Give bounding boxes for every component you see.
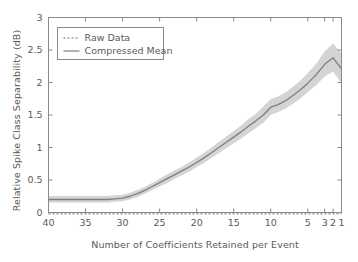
y-tick-label: 3: [36, 12, 42, 23]
legend-label: Raw Data: [85, 32, 131, 43]
x-tick-label: 25: [154, 217, 166, 228]
y-tick-label: 0: [36, 207, 42, 218]
x-tick-label: 15: [228, 217, 240, 228]
y-tick-label: 0.5: [27, 174, 42, 185]
x-tick-label: 10: [265, 217, 277, 228]
x-tick-label: 20: [191, 217, 203, 228]
chart-legend: Raw DataCompressed Mean: [58, 28, 173, 60]
chart-plot-area: 403530252015105321 00.511.522.53 Raw Dat…: [0, 0, 358, 262]
legend-label: Compressed Mean: [85, 45, 173, 56]
y-tick-label: 2: [36, 77, 42, 88]
x-tick-label: 30: [117, 217, 129, 228]
confidence-band: [49, 44, 342, 203]
y-tick-label: 1: [36, 142, 42, 153]
x-tick-label: 1: [338, 217, 344, 228]
x-tick-label: 2: [330, 217, 336, 228]
x-axis-title: Number of Coefficients Retained per Even…: [49, 239, 341, 250]
x-tick-label: 40: [42, 217, 54, 228]
x-tick-label: 35: [79, 217, 91, 228]
y-tick-label: 1.5: [27, 109, 42, 120]
x-tick-label: 3: [322, 217, 328, 228]
compressed-mean-line: [49, 58, 342, 200]
chart-figure: 403530252015105321 00.511.522.53 Raw Dat…: [0, 0, 358, 262]
x-tick-label: 5: [305, 217, 311, 228]
y-tick-label: 2.5: [27, 44, 42, 55]
y-axis-title: Relative Spike Class Separability (dB): [11, 21, 22, 221]
